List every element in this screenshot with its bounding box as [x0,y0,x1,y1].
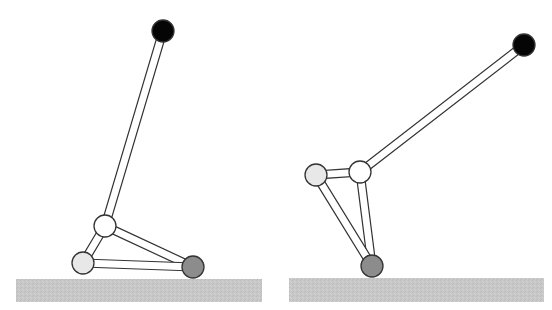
joint-foot [361,255,383,277]
link-top-knee [101,30,167,227]
ground-surface [289,278,544,302]
right-pose-panel [289,34,544,302]
ground-surface [16,279,262,302]
left-pose-panel [16,20,262,302]
diagram-canvas [0,0,552,310]
joint-knee [349,161,371,183]
link-top-knee [358,42,527,175]
joint-top [152,20,174,42]
joint-top [513,34,535,56]
joint-heel [72,252,94,274]
linkage-diagram [0,0,552,310]
joint-foot [182,256,204,278]
joint-knee [94,215,116,237]
joint-heel [305,164,327,186]
